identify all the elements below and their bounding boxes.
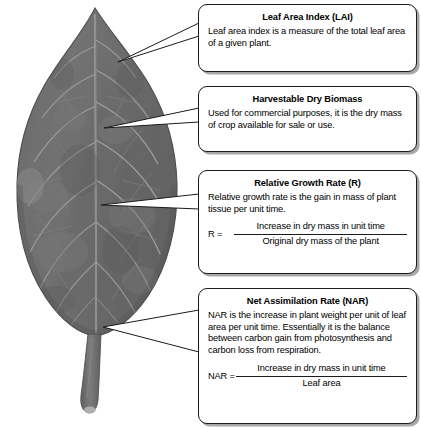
equation-numerator: Increase in dry mass in unit time: [234, 221, 407, 233]
equation-lhs: NAR =: [208, 371, 235, 381]
callout-relative-growth-rate[interactable]: Relative Growth Rate (R) Relative growth…: [198, 170, 417, 274]
callout-harvestable-dry-biomass[interactable]: Harvestable Dry Biomass Used for commerc…: [198, 86, 417, 152]
equation-denominator: Leaf area: [236, 378, 407, 390]
equation-fraction: Increase in dry mass in unit time Origin…: [234, 221, 407, 247]
callout-body: Leaf area index is a measure of the tota…: [208, 26, 407, 49]
leaf-petiole: [81, 334, 101, 413]
equation-numerator: Increase in dry mass in unit time: [236, 363, 407, 375]
callout-body: Relative growth rate is the gain in mass…: [208, 192, 407, 215]
callout-body: Used for commercial purposes, it is the …: [208, 108, 407, 131]
callout-title: Relative Growth Rate (R): [208, 177, 407, 189]
callout-net-assimilation-rate[interactable]: Net Assimilation Rate (NAR) NAR is the i…: [198, 288, 417, 424]
equation-denominator: Original dry mass of the plant: [234, 236, 407, 248]
equation-relative-growth-rate: R = Increase in dry mass in unit time Or…: [208, 221, 407, 247]
equation-fraction-bar: [234, 234, 407, 235]
equation-fraction: Increase in dry mass in unit time Leaf a…: [236, 363, 407, 389]
callout-title: Net Assimilation Rate (NAR): [208, 295, 407, 307]
equation-net-assimilation-rate: NAR = Increase in dry mass in unit time …: [208, 363, 407, 389]
equation-lhs: R =: [208, 229, 222, 239]
callout-title: Harvestable Dry Biomass: [208, 93, 407, 105]
diagram-canvas: Leaf Area Index (LAI) Leaf area index is…: [0, 0, 421, 429]
leaf-photograph: [0, 0, 200, 429]
callout-leaf-area-index[interactable]: Leaf Area Index (LAI) Leaf area index is…: [198, 4, 417, 72]
callout-body: NAR is the increase in plant weight per …: [208, 310, 407, 356]
leaf-blade: [14, 8, 177, 336]
equation-fraction-bar: [236, 376, 407, 377]
callout-title: Leaf Area Index (LAI): [208, 11, 407, 23]
